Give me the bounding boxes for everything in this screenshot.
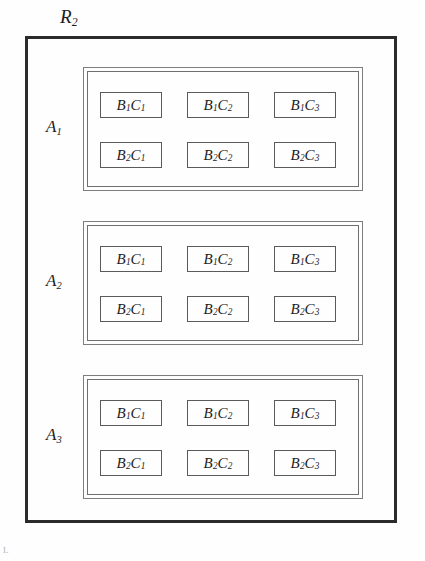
cell-a1-r0-c0: B1C1 (100, 92, 162, 118)
cell-a1-r0-c1-b: B (204, 97, 213, 114)
cell-a1-r1-c2-b-sub: 2 (300, 153, 305, 163)
cell-a1-r0-c0-c: C (131, 97, 141, 114)
cell-a2-r1-c0-b-sub: 2 (126, 307, 131, 317)
scan-artifact: L (3, 545, 12, 553)
group-label-a3-subscript: 3 (57, 434, 62, 445)
cell-a1-r1-c1: B2C2 (187, 142, 249, 168)
cell-a3-r0-c0-b-sub: 1 (126, 411, 131, 421)
cell-a3-r1-c1-b: B (204, 455, 213, 472)
cell-a3-r1-c1-c: C (218, 455, 228, 472)
cell-a3-r0-c2-b: B (291, 405, 300, 422)
outer-region-label-letter: R (60, 6, 72, 27)
cell-a1-r1-c1-b: B (204, 147, 213, 164)
cell-a3-r0-c1: B1C2 (187, 400, 249, 426)
cell-a3-r0-c2-c-sub: 3 (315, 411, 320, 421)
cell-a2-r0-c1-b-sub: 1 (213, 257, 218, 267)
cell-a2-r1-c1: B2C2 (187, 296, 249, 322)
group-box-a3: B1C1 B1C2 B1C3 B2C1 B2C2 B2C3 (83, 375, 363, 499)
cell-a1-r0-c2-b-sub: 1 (300, 103, 305, 113)
cell-a2-r1-c2-b-sub: 2 (300, 307, 305, 317)
cell-a2-r1-c0: B2C1 (100, 296, 162, 322)
cell-a2-r1-c0-c-sub: 1 (141, 307, 146, 317)
cell-a1-r1-c0-c-sub: 1 (141, 153, 146, 163)
cell-a3-r0-c1-c: C (218, 405, 228, 422)
group-box-a2-inner: B1C1 B1C2 B1C3 B2C1 B2C2 B2C3 (87, 225, 359, 341)
cell-a1-r0-c1-c-sub: 2 (228, 103, 233, 113)
cell-a1-r0-c1-c: C (218, 97, 228, 114)
cell-a3-r0-c0-c-sub: 1 (141, 411, 146, 421)
cell-a1-r1-c0-b-sub: 2 (126, 153, 131, 163)
group-box-a2: B1C1 B1C2 B1C3 B2C1 B2C2 B2C3 (83, 221, 363, 345)
cell-a3-r0-c1-b: B (204, 405, 213, 422)
cell-a3-r0-c2-c: C (305, 405, 315, 422)
group-label-a1-letter: A (46, 117, 57, 136)
cell-a2-r0-c1-c: C (218, 251, 228, 268)
cell-a2-r1-c0-b: B (117, 301, 126, 318)
cell-a3-r1-c1: B2C2 (187, 450, 249, 476)
cell-a3-r1-c0-c-sub: 1 (141, 461, 146, 471)
nested-design-diagram: R2 A1 B1C1 B1C2 B1C3 B2C1 B2C2 B2C3 A2 (0, 0, 425, 561)
cell-a1-r1-c2-c-sub: 3 (315, 153, 320, 163)
cell-a3-r1-c2-c: C (305, 455, 315, 472)
cell-a2-r0-c1-c-sub: 2 (228, 257, 233, 267)
cell-a2-r0-c2-c-sub: 3 (315, 257, 320, 267)
outer-region-box: A1 B1C1 B1C2 B1C3 B2C1 B2C2 B2C3 A2 B1C1 (25, 36, 397, 523)
cell-a3-r1-c2-b-sub: 2 (300, 461, 305, 471)
cell-a3-r1-c0-b: B (117, 455, 126, 472)
cell-a1-r0-c0-b: B (117, 97, 126, 114)
cell-a2-r0-c0-c-sub: 1 (141, 257, 146, 267)
cell-a1-r1-c0: B2C1 (100, 142, 162, 168)
cell-a2-r1-c2-c: C (305, 301, 315, 318)
cell-a3-r0-c0-c: C (131, 405, 141, 422)
cell-a3-r1-c2-c-sub: 3 (315, 461, 320, 471)
cell-a2-r0-c0-b: B (117, 251, 126, 268)
cell-a2-r0-c0: B1C1 (100, 246, 162, 272)
cell-a1-r0-c2-c: C (305, 97, 315, 114)
cell-a1-r1-c2-c: C (305, 147, 315, 164)
cell-a2-r0-c2-b-sub: 1 (300, 257, 305, 267)
group-label-a1: A1 (46, 117, 62, 137)
cell-a2-r0-c1-b: B (204, 251, 213, 268)
group-box-a1-inner: B1C1 B1C2 B1C3 B2C1 B2C2 B2C3 (87, 71, 359, 187)
cell-a2-r1-c1-b: B (204, 301, 213, 318)
group-label-a2-letter: A (46, 271, 57, 290)
cell-a3-r0-c2: B1C3 (274, 400, 336, 426)
group-box-a1: B1C1 B1C2 B1C3 B2C1 B2C2 B2C3 (83, 67, 363, 191)
cell-a1-r0-c2: B1C3 (274, 92, 336, 118)
cell-a2-r1-c1-c: C (218, 301, 228, 318)
cell-a3-r1-c1-b-sub: 2 (213, 461, 218, 471)
cell-a2-r0-c2: B1C3 (274, 246, 336, 272)
cell-a1-r0-c0-c-sub: 1 (141, 103, 146, 113)
cell-a2-r1-c0-c: C (131, 301, 141, 318)
cell-a3-r1-c0-c: C (131, 455, 141, 472)
group-label-a1-subscript: 1 (57, 126, 62, 137)
cell-a1-r0-c2-c-sub: 3 (315, 103, 320, 113)
cell-a1-r0-c1-b-sub: 1 (213, 103, 218, 113)
cell-a2-r0-c0-b-sub: 1 (126, 257, 131, 267)
cell-a3-r1-c2: B2C3 (274, 450, 336, 476)
cell-a3-r0-c1-c-sub: 2 (228, 411, 233, 421)
cell-a3-r0-c0: B1C1 (100, 400, 162, 426)
group-label-a2-subscript: 2 (57, 280, 62, 291)
outer-region-label-subscript: 2 (72, 16, 78, 29)
cell-a2-r1-c2: B2C3 (274, 296, 336, 322)
cell-a3-r1-c0-b-sub: 2 (126, 461, 131, 471)
cell-a1-r1-c1-c: C (218, 147, 228, 164)
cell-a1-r0-c1: B1C2 (187, 92, 249, 118)
cell-a3-r1-c2-b: B (291, 455, 300, 472)
cell-a3-r1-c1-c-sub: 2 (228, 461, 233, 471)
group-label-a3-letter: A (46, 425, 57, 444)
cell-a3-r1-c0: B2C1 (100, 450, 162, 476)
cell-a1-r1-c2: B2C3 (274, 142, 336, 168)
group-label-a2: A2 (46, 271, 62, 291)
cell-a2-r1-c1-c-sub: 2 (228, 307, 233, 317)
cell-a1-r0-c2-b: B (291, 97, 300, 114)
group-box-a3-inner: B1C1 B1C2 B1C3 B2C1 B2C2 B2C3 (87, 379, 359, 495)
cell-a1-r0-c0-b-sub: 1 (126, 103, 131, 113)
cell-a1-r1-c0-c: C (131, 147, 141, 164)
cell-a2-r1-c1-b-sub: 2 (213, 307, 218, 317)
outer-region-label: R2 (60, 6, 78, 28)
cell-a2-r0-c2-c: C (305, 251, 315, 268)
cell-a1-r1-c2-b: B (291, 147, 300, 164)
cell-a1-r1-c1-b-sub: 2 (213, 153, 218, 163)
